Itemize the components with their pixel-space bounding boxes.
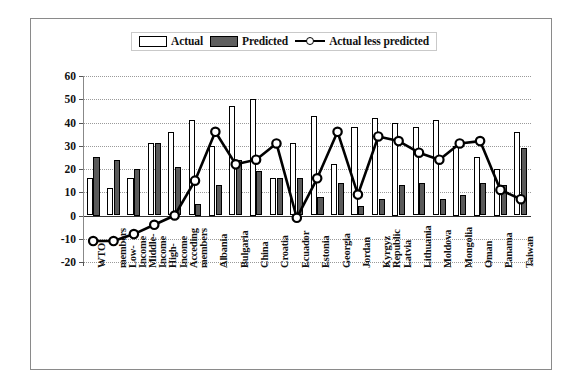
bar-actual <box>127 178 133 215</box>
x-axis-category-label: Oman <box>484 241 494 268</box>
x-tick-mark <box>511 262 512 266</box>
x-tick-mark <box>531 262 532 266</box>
plot-area: 6050403020100-10-20WTOmembersLow-IncomeM… <box>83 76 531 262</box>
y-axis-label: 50 <box>65 93 77 105</box>
bar-predicted <box>195 204 201 216</box>
x-tick-mark <box>226 262 227 266</box>
x-tick-mark <box>205 262 206 266</box>
x-axis-category-label: Ecuador <box>301 231 311 268</box>
legend-item-predicted: Predicted <box>210 35 288 47</box>
plot-inner: 6050403020100-10-20WTOmembersLow-IncomeM… <box>83 76 531 262</box>
x-tick-mark <box>185 262 186 266</box>
bar-predicted <box>521 148 527 215</box>
bar-predicted <box>358 206 364 215</box>
x-axis-category-label: Albania <box>219 234 229 268</box>
x-axis-category-label: KyrgyzRepublic <box>382 229 401 268</box>
x-tick-mark <box>490 262 491 266</box>
bar-predicted <box>114 160 120 216</box>
x-axis-category-label: membersLow- <box>118 228 137 268</box>
x-tick-mark <box>307 262 308 266</box>
y-axis-label: -10 <box>61 233 76 245</box>
x-axis-category-label: IncomeHigh- <box>158 236 177 268</box>
bar-predicted <box>399 185 405 215</box>
bar-actual <box>392 123 398 216</box>
bar-predicted <box>155 143 161 215</box>
x-axis-category-label: IncomeMiddle- <box>138 234 157 268</box>
x-axis-category-label: Croatia <box>280 235 290 268</box>
x-axis-category-label: China <box>260 242 270 268</box>
bar-predicted <box>317 197 323 216</box>
bar-actual <box>474 157 480 215</box>
x-axis-category-label: Bulgaria <box>240 231 250 269</box>
legend-swatch-line-marker-icon <box>295 36 325 46</box>
y-axis-label: 30 <box>65 140 77 152</box>
gridline-0 <box>83 216 531 217</box>
gridline-40 <box>83 123 531 124</box>
bar-predicted <box>460 195 466 216</box>
x-axis-category-label: Latvia <box>403 240 413 268</box>
x-tick-mark <box>103 262 104 266</box>
bar-actual <box>290 143 296 215</box>
x-tick-mark <box>348 262 349 266</box>
x-tick-mark <box>470 262 471 266</box>
x-tick-mark <box>266 262 267 266</box>
legend-swatch-predicted-icon <box>210 36 238 47</box>
y-axis-label: 60 <box>65 70 77 82</box>
bar-actual <box>189 120 195 215</box>
bar-actual <box>229 106 235 215</box>
gridline-50 <box>83 99 531 100</box>
x-axis-category-label: Lithuania <box>423 225 433 268</box>
bar-predicted <box>297 178 303 215</box>
bar-actual <box>168 132 174 216</box>
bar-actual <box>433 120 439 215</box>
bar-actual <box>148 143 154 215</box>
bar-predicted <box>216 185 222 215</box>
bar-predicted <box>277 178 283 215</box>
legend-item-actual: Actual <box>139 35 203 47</box>
chart-figure: Actual Predicted Actual less predicted 6… <box>30 18 552 370</box>
x-axis-category-label: Panama <box>504 232 514 268</box>
y-axis-label: 10 <box>65 186 77 198</box>
x-axis-category-label: Taiwan <box>525 236 535 268</box>
legend-label-actual: Actual <box>171 35 203 47</box>
bar-predicted <box>256 171 262 215</box>
x-axis-category-label: members <box>199 228 209 268</box>
x-tick-mark <box>124 262 125 266</box>
legend-label-predicted: Predicted <box>242 35 288 47</box>
bar-predicted <box>338 183 344 216</box>
bar-predicted <box>501 185 507 215</box>
bar-predicted <box>93 157 99 215</box>
bar-actual <box>413 127 419 215</box>
bar-actual <box>514 132 520 216</box>
x-axis-category-label: Jordan <box>362 237 372 268</box>
bar-predicted <box>419 183 425 216</box>
y-axis-label: 20 <box>65 163 77 175</box>
x-tick-mark <box>388 262 389 266</box>
bar-actual <box>311 116 317 216</box>
bar-actual <box>107 188 113 216</box>
legend-item-actual-less-predicted: Actual less predicted <box>295 35 429 47</box>
gridline-60 <box>83 76 531 77</box>
y-axis-label: 40 <box>65 117 77 129</box>
x-tick-mark <box>164 262 165 266</box>
bar-predicted <box>175 167 181 216</box>
y-axis-label: 0 <box>70 210 76 222</box>
bar-actual <box>250 99 256 215</box>
x-axis-category-label: Mongolia <box>464 227 474 268</box>
bar-predicted <box>440 199 446 215</box>
x-tick-mark <box>450 262 451 266</box>
x-axis-category-label: Moldova <box>443 230 453 268</box>
x-tick-mark <box>409 262 410 266</box>
x-tick-mark <box>368 262 369 266</box>
x-tick-mark <box>144 262 145 266</box>
bar-predicted <box>379 199 385 215</box>
bar-actual <box>270 178 276 215</box>
x-tick-mark <box>246 262 247 266</box>
bar-actual <box>87 178 93 215</box>
y-axis-line <box>83 76 84 262</box>
bar-predicted <box>480 183 486 216</box>
x-axis-category-label: WTO <box>97 243 107 268</box>
legend-swatch-actual-icon <box>139 36 167 47</box>
chart-legend: Actual Predicted Actual less predicted <box>131 32 437 51</box>
x-tick-mark <box>327 262 328 266</box>
